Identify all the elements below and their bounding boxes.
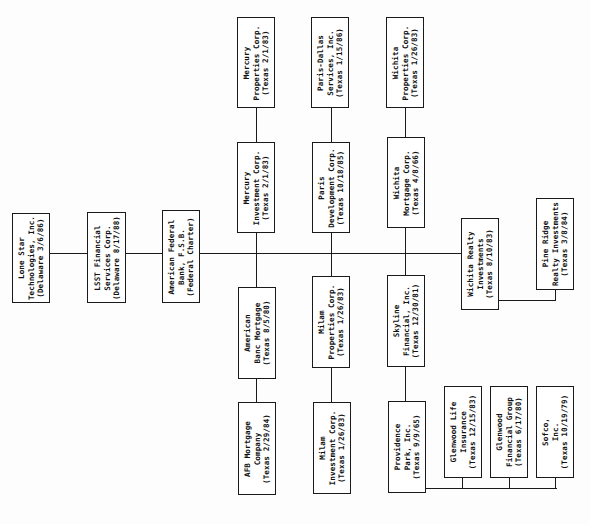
entity-paris-development: ParisDevelopment Corp.(Texas 10/18/85): [312, 142, 350, 233]
entity-jurisdiction: (Texas 12/15/83): [468, 395, 478, 470]
entity-name: AFB Mortgage: [243, 413, 253, 483]
entity-name: Milam: [317, 285, 327, 360]
entity-jurisdiction: (Texas 10/18/85): [336, 148, 346, 227]
entity-name-line2: Services Corp.: [102, 215, 112, 299]
entity-lsst-financial: LSST FinancialServices Corp.(Delaware 8/…: [87, 212, 126, 303]
entity-glenwood-life-insurance: Glenwood LifeInsurance(Texas 12/15/83): [444, 386, 482, 478]
entity-name: LSST Financial: [92, 215, 102, 299]
entity-name-line2: Insurance: [458, 395, 468, 470]
entity-paris-dallas-services: Paris-DallasServices, Inc.(Texas 1/15/86…: [311, 17, 349, 108]
entity-glenwood-financial-group: GlenwoodFinancial Group(Texas 6/17/80): [490, 386, 528, 478]
entity-jurisdiction: (Texas 1/26/83): [336, 285, 346, 360]
connector-pine-ridge-stub: [555, 289, 556, 301]
connector-glenwood-financial-stub: [509, 478, 510, 489]
entity-jurisdiction: (Texas 1/15/86): [335, 27, 345, 97]
entity-name-line2: Banc Mortgage: [252, 300, 262, 365]
entity-name: Milam: [318, 411, 328, 486]
entity-sofco: Sofco,Inc.(Texas 10/19/79): [536, 386, 574, 478]
entity-name: Providence: [393, 414, 403, 479]
entity-name: Glenwood: [495, 397, 505, 467]
entity-name-line2: Services, Inc.: [325, 27, 335, 97]
entity-name-line2: Investments: [475, 229, 485, 299]
entity-name: Wichita: [391, 25, 401, 100]
entity-name-line2: Investment Corp.: [251, 150, 261, 225]
connector-sofco-stub: [555, 478, 556, 489]
entity-name-line2: Financial Group: [504, 397, 514, 467]
entity-jurisdiction: (Federal Charter): [186, 217, 196, 296]
entity-jurisdiction: (Texas 8/10/83): [485, 229, 495, 299]
entity-name-line2: Properties Corp.: [400, 25, 410, 100]
entity-name: Pine Ridge: [541, 202, 551, 286]
entity-american-federal-bank: American FederalBank, F.S.B.(Federal Cha…: [162, 210, 200, 303]
entity-american-banc-mortgage: AmericanBanc Mortgage(Texas 8/5/80): [238, 287, 276, 379]
entity-pine-ridge-realty: Pine RidgeRealty Investments(Texas 3/8/8…: [536, 198, 574, 290]
entity-name: Mercury: [242, 150, 252, 225]
entity-milam-investment: MilamInvestment Corp.(Texas 1/26/83): [313, 402, 351, 494]
entity-jurisdiction: (Delaware 3/6/86): [36, 216, 46, 300]
entity-afb-mortgage: AFB MortgageCompany(Texas 2/29/84): [238, 402, 276, 495]
entity-name-line2: Properties Corp.: [326, 285, 336, 360]
entity-name: American: [243, 300, 253, 365]
connector-realty-to-pine: [499, 300, 556, 301]
entity-name-line2: Park, Inc.: [402, 414, 412, 479]
entity-jurisdiction: (Texas 2/1/83): [261, 150, 271, 225]
entity-mercury-investment: MercuryInvestment Corp.(Texas 2/1/83): [237, 142, 275, 233]
org-chart: Lone StarTechnologies, Inc.(Delaware 3/6…: [0, 0, 590, 524]
entity-name: Wichita Realty: [466, 229, 476, 299]
entity-jurisdiction: (Texas 2/29/84): [262, 413, 272, 483]
entity-name: Paris: [317, 148, 327, 227]
entity-name-line2: Mortgage Corp.: [401, 150, 411, 215]
entity-jurisdiction: (Texas 9/9/65): [412, 414, 422, 479]
entity-name-line2: Financial, Inc.: [401, 284, 411, 359]
entity-name: American Federal: [167, 217, 177, 296]
entity-name: Glenwood Life: [449, 395, 459, 470]
entity-wichita-properties: WichitaProperties Corp.(Texas 1/26/83): [386, 17, 424, 108]
entity-name-line2: Technologies, Inc.: [26, 216, 36, 300]
entity-name-line2: Realty Investments: [550, 202, 560, 286]
entity-jurisdiction: (Texas 1/26/83): [410, 25, 420, 100]
entity-mercury-properties: MercuryProperties Corp.(Texas 2/1/83): [237, 17, 275, 108]
entity-name: Skyline: [392, 284, 402, 359]
entity-wichita-mortgage: WichitaMortgage Corp.(Texas 4/8/66): [387, 137, 425, 228]
entity-jurisdiction: (Texas 4/8/66): [411, 150, 421, 215]
entity-lone-star-technologies: Lone StarTechnologies, Inc.(Delaware 3/6…: [12, 213, 50, 303]
entity-wichita-realty: Wichita RealtyInvestments(Texas 8/10/83): [461, 218, 499, 310]
entity-jurisdiction: (Texas 10/19/79): [560, 395, 570, 470]
entity-skyline-financial: SkylineFinancial, Inc.(Texas 12/30/81): [387, 275, 425, 367]
entity-jurisdiction: (Delaware 8/17/88): [111, 215, 121, 299]
entity-name: Wichita: [392, 150, 402, 215]
entity-milam-properties: MilamProperties Corp.(Texas 1/26/83): [312, 276, 350, 368]
entity-name: Lone Star: [17, 216, 27, 300]
entity-name-line2: Company: [252, 413, 262, 483]
entity-jurisdiction: (Texas 12/30/81): [411, 284, 421, 359]
entity-name-line2: Properties Corp.: [251, 25, 261, 100]
entity-name-line2: Inc.: [550, 395, 560, 470]
entity-name-line2: Bank, F.S.B.: [176, 217, 186, 296]
entity-providence-park: ProvidencePark, Inc.(Texas 9/9/65): [388, 401, 426, 493]
entity-name-line2: Development Corp.: [326, 148, 336, 227]
entity-jurisdiction: (Texas 1/26/83): [337, 411, 347, 486]
entity-jurisdiction: (Texas 3/8/84): [560, 202, 570, 286]
entity-jurisdiction: (Texas 2/1/83): [261, 25, 271, 100]
entity-name: Mercury: [242, 25, 252, 100]
entity-name: Paris-Dallas: [316, 27, 326, 97]
entity-name: Sofco,: [541, 395, 551, 470]
connector-providence-subs: [426, 488, 557, 489]
entity-jurisdiction: (Texas 6/17/80): [514, 397, 524, 467]
connector-glenwood-life-stub: [462, 478, 463, 489]
entity-name-line2: Investment Corp.: [327, 411, 337, 486]
entity-jurisdiction: (Texas 8/5/80): [262, 300, 272, 365]
